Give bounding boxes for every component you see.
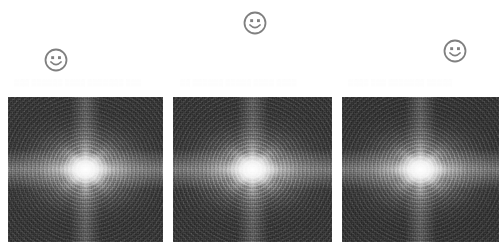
smiley-face-icon — [242, 10, 268, 36]
spectrum-panel-3 — [342, 97, 499, 242]
ghost-text-line: ▒▒ ▒▒▒▒▒▒ ▒▒▒▒▒ ▒▒▒▒ ▒▒▒▒ — [180, 78, 330, 87]
ghost-text-line: ▒▒▒ ▒▒▒▒▒▒ ▒▒▒▒ ▒▒▒▒▒▒▒ ▒▒▒ — [14, 78, 164, 87]
ghost-text-line: ▒▒▒▒ ▒▒▒ ▒▒▒▒▒▒▒ ▒▒▒▒▒ — [348, 78, 498, 87]
figure-container: ▒▒▒ ▒▒▒▒▒▒ ▒▒▒▒ ▒▒▒▒▒▒▒ ▒▒▒ ▒▒ ▒▒▒▒▒▒ ▒▒… — [0, 0, 504, 247]
smiley-face-icon — [442, 38, 468, 64]
spectrum-speckle — [8, 97, 163, 242]
spectrum-speckle — [173, 97, 332, 242]
spectrum-panel-1 — [8, 97, 163, 242]
smiley-face-icon — [43, 47, 69, 73]
spectrum-panel-2 — [173, 97, 332, 242]
spectrum-speckle — [342, 97, 499, 242]
